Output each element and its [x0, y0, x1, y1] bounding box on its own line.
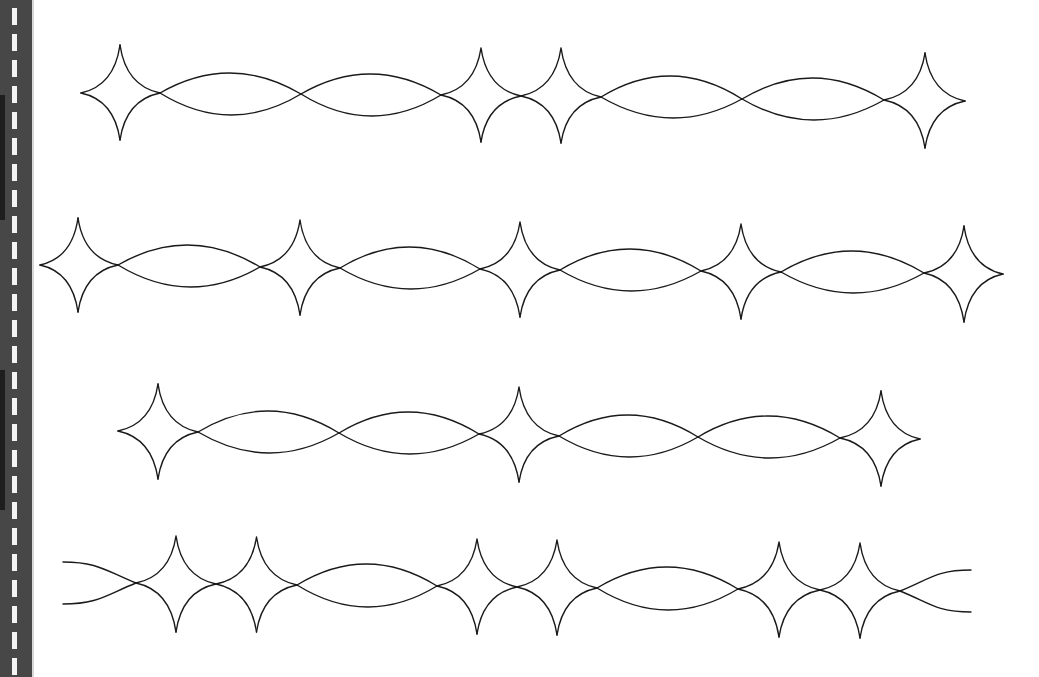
star-arc: [40, 265, 78, 312]
star-arc: [881, 391, 920, 439]
lens-upper-arc: [560, 249, 701, 271]
lens-lower-arc: [601, 97, 742, 118]
lens-upper-arc: [781, 251, 924, 273]
ornament-drawing: [0, 0, 1039, 677]
star-arc: [964, 274, 1003, 322]
lens-lower-arc: [297, 585, 437, 607]
lens-upper-arc: [297, 564, 437, 586]
star-lower-arc: [136, 583, 176, 632]
lens-upper-arc: [118, 245, 260, 267]
star-lower-arc: [260, 267, 300, 315]
star-upper-arcs: [738, 542, 820, 590]
lens-upper-arc: [597, 567, 738, 589]
star-arc: [840, 438, 881, 486]
star-lower-arc: [480, 269, 520, 317]
star-arc: [40, 218, 78, 265]
star-arc: [81, 93, 120, 140]
star-arc: [158, 432, 198, 479]
tail-arc: [900, 570, 971, 591]
lens-lower-arc: [559, 436, 698, 457]
star-lower-arc: [701, 271, 741, 319]
lens-upper-arc: [301, 74, 441, 95]
star-lower-arc: [820, 590, 860, 638]
star-upper-arcs: [480, 222, 560, 270]
star-arc: [881, 439, 920, 486]
star-lower-arc: [477, 587, 517, 634]
star-lower-arc: [481, 96, 521, 142]
star-upper-arcs: [136, 536, 216, 584]
star-arc: [964, 226, 1003, 274]
star-lower-arc: [479, 434, 519, 482]
lens-lower-arc: [742, 99, 884, 120]
lens-lower-arc: [198, 432, 339, 453]
star-upper-arcs: [521, 48, 601, 97]
star-lower-arc: [437, 586, 477, 634]
star-lower-arc: [216, 584, 257, 632]
lens-lower-arc: [340, 268, 480, 289]
star-arc: [118, 384, 158, 431]
star-lower-arc: [741, 272, 781, 319]
star-upper-arcs: [216, 537, 297, 585]
lens-upper-arc: [198, 411, 339, 433]
star-lower-arc: [557, 588, 597, 635]
lens-upper-arc: [339, 412, 479, 434]
tail-arc: [900, 591, 971, 612]
lens-upper-arc: [742, 78, 884, 100]
star-lower-arc: [300, 268, 340, 315]
lens-lower-arc: [560, 270, 701, 291]
star-arc: [884, 100, 925, 148]
star-upper-arcs: [437, 539, 517, 587]
lens-upper-arc: [160, 73, 301, 94]
star-arc: [120, 45, 160, 93]
star-arc: [884, 53, 925, 100]
star-arc: [925, 53, 965, 101]
star-lower-arc: [257, 585, 298, 632]
star-lower-arc: [176, 584, 216, 632]
star-arc: [158, 384, 198, 432]
star-lower-arc: [738, 589, 779, 637]
lens-lower-arc: [597, 588, 738, 610]
lens-lower-arc: [301, 94, 441, 116]
star-lower-arc: [517, 587, 557, 635]
star-lower-arc: [779, 590, 820, 637]
star-lower-arc: [519, 436, 559, 482]
lens-lower-arc: [781, 272, 924, 293]
lens-upper-arc: [601, 76, 742, 99]
star-upper-arcs: [441, 48, 521, 96]
star-arc: [924, 273, 964, 322]
star-arc: [81, 45, 120, 93]
star-arc: [78, 218, 118, 265]
star-upper-arcs: [517, 540, 597, 588]
tail-arc: [63, 583, 136, 604]
star-arc: [840, 391, 881, 438]
star-arc: [120, 93, 160, 140]
star-lower-arc: [561, 97, 601, 143]
star-arc: [78, 265, 118, 312]
star-arc: [925, 101, 965, 148]
star-lower-arc: [521, 96, 561, 143]
lens-upper-arc: [698, 416, 840, 438]
star-upper-arcs: [701, 224, 781, 272]
tail-arc: [63, 562, 136, 583]
lens-lower-arc: [160, 93, 301, 115]
lens-upper-arc: [340, 247, 480, 269]
lens-lower-arc: [118, 265, 260, 287]
star-upper-arcs: [479, 387, 559, 436]
lens-lower-arc: [339, 433, 479, 454]
star-lower-arc: [520, 270, 560, 317]
star-upper-arcs: [820, 543, 900, 591]
star-arc: [924, 226, 964, 273]
star-lower-arc: [441, 95, 481, 142]
lens-lower-arc: [698, 437, 840, 458]
lens-upper-arc: [559, 415, 698, 437]
star-upper-arcs: [260, 220, 340, 268]
star-lower-arc: [860, 591, 900, 638]
star-arc: [118, 431, 158, 479]
